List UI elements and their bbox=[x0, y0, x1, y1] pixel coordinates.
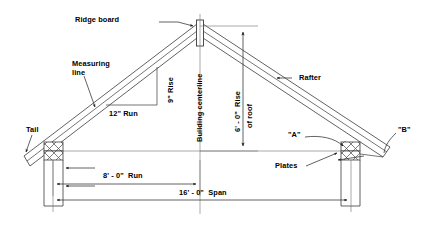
unit-rise-run-triangle bbox=[106, 67, 157, 105]
ridge-board-label: Ridge board bbox=[75, 16, 119, 25]
span-dimension-label: 16' - 0" Span bbox=[179, 189, 227, 198]
tail-label: Tail bbox=[26, 126, 39, 135]
right-rafter-top-edge bbox=[203, 24, 390, 147]
right-wall-assembly bbox=[341, 142, 360, 206]
left-rafter-tail-cut bbox=[24, 156, 30, 166]
roof-framing-diagram: Ridge board Measuring line 9" Rise 12" R… bbox=[0, 0, 429, 228]
rise-of-roof-label-1: 6' - 0" Rise bbox=[234, 91, 243, 132]
rise-of-roof-dimension bbox=[200, 26, 258, 151]
right-top-plate-upper bbox=[341, 142, 360, 151]
building-centerline-label: Building centerline bbox=[196, 74, 205, 142]
point-a-leader bbox=[305, 136, 343, 146]
left-top-plate-upper bbox=[44, 142, 63, 151]
run-dimension-label: 8' - 0" Run bbox=[103, 172, 143, 181]
point-a-label: "A" bbox=[288, 131, 301, 140]
left-wall-assembly bbox=[44, 142, 63, 206]
measuring-line-label-2: line bbox=[72, 69, 85, 78]
plates-label: Plates bbox=[275, 162, 297, 171]
point-b-label: "B" bbox=[398, 126, 411, 135]
right-top-plate-lower bbox=[341, 151, 360, 160]
left-top-plate-lower bbox=[44, 151, 63, 160]
left-plate-pointers bbox=[66, 168, 95, 186]
ridge-board-leader bbox=[159, 22, 193, 26]
measuring-line-leader bbox=[84, 76, 95, 107]
point-b-leader bbox=[384, 133, 396, 153]
span-dimension bbox=[53, 160, 351, 212]
rise-of-roof-label-2: of roof bbox=[246, 104, 255, 128]
tail-leader bbox=[26, 135, 32, 152]
rafter-label: Rafter bbox=[299, 74, 321, 83]
unit-rise-label: 9" Rise bbox=[167, 77, 176, 103]
unit-run-label: 12" Run bbox=[109, 110, 138, 119]
